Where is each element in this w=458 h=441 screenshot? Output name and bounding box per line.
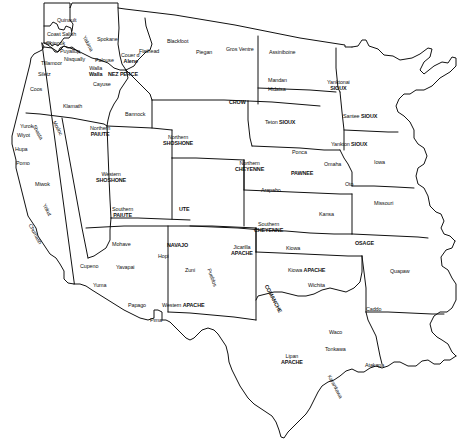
tribe-label: Quinault — [57, 18, 76, 24]
tribe-label: Teton SIOUX — [265, 120, 295, 126]
tribe-label: Kiowa — [286, 246, 300, 252]
tribe-label: Nisqually — [64, 57, 85, 63]
tribe-label: Puyallup — [60, 49, 80, 55]
tribe-label: LipanAPACHE — [281, 354, 303, 365]
tribe-label: YanktonaiSIOUX — [327, 80, 350, 91]
tribe-label: Wichita — [308, 283, 325, 289]
tribe-label: WesternSHOSHONE — [96, 172, 126, 183]
tribe-label: Tillamoor — [41, 61, 62, 67]
tribe-label: NEZ PERCE — [108, 72, 138, 78]
tribe-label: Yavapai — [116, 265, 134, 271]
tribe-label: Quapaw — [390, 269, 409, 275]
tribe-label: Missouri — [374, 201, 393, 207]
tribe-label: CROW — [229, 100, 246, 106]
tribe-label: Piegan — [196, 50, 212, 56]
tribe-label: Papago — [128, 303, 146, 309]
tribe-label: Pomo — [16, 161, 30, 167]
tribe-label: Kansa — [319, 212, 334, 218]
tribe-label: Wiyot — [17, 133, 30, 139]
tribe-label: Chinook — [46, 41, 65, 47]
tribe-label: Tonkawa — [325, 347, 346, 353]
tribe-label: Yankton SIOUX — [331, 142, 367, 148]
tribe-label: Cupeno — [80, 264, 98, 270]
tribe-label: Yuma — [93, 283, 106, 289]
tribe-label: Pima — [150, 318, 162, 324]
tribe-label: Blackfoot — [167, 39, 188, 45]
tribe-label: Miwok — [35, 182, 50, 188]
tribe-label: Santee SIOUX — [343, 114, 377, 120]
tribe-label: Bannock — [125, 112, 145, 118]
tribe-label: JicarillaAPACHE — [231, 245, 253, 256]
tribe-label: NorthernCHEYENNE — [235, 161, 264, 172]
tribe-label: Hopi — [158, 254, 169, 260]
tribe-label: Coast Salish — [47, 32, 76, 38]
tribe-label: Hidatsa — [268, 87, 286, 93]
tribe-label: Siletz — [38, 72, 51, 78]
tribe-label: Mohave — [112, 242, 131, 248]
tribe-label: Zuni — [185, 268, 195, 274]
tribe-label: Cayuse — [93, 82, 111, 88]
tribe-label: Mandan — [268, 78, 287, 84]
national-outline — [12, 3, 456, 438]
tribe-label: Gros Ventre — [226, 47, 254, 53]
tribe-label: Arapaho — [261, 188, 281, 194]
tribe-label: Ponca — [292, 150, 307, 156]
tribe-label: Omaha — [324, 162, 341, 168]
tribe-label: NorthernPAIUTE — [90, 126, 110, 137]
tribal-territory-map: QuinaultCoast SalishChinookPuyallupNisqu… — [0, 0, 458, 441]
tribe-label: SouthernCHEYENNE — [254, 222, 283, 233]
tribe-label: UTE — [179, 207, 189, 213]
tribe-label: Hupa — [15, 147, 28, 153]
map-boundaries-svg — [0, 0, 458, 441]
tribe-label: Kiowa APACHE — [288, 268, 325, 274]
tribe-label: NAVAJO — [167, 243, 188, 249]
tribe-label: Flathead — [139, 49, 159, 55]
tribe-label: NorthernSHOSHONE — [163, 135, 193, 146]
tribe-label: Palouse — [95, 58, 114, 64]
tribe-label: Western APACHE — [162, 303, 204, 309]
tribe-label: Klamath — [63, 104, 82, 110]
tribe-label: Coos — [30, 87, 42, 93]
tribe-label: Iowa — [374, 160, 385, 166]
tribe-label: WallaWalla — [89, 66, 102, 77]
tribe-label: OSAGE — [355, 241, 374, 247]
tribe-label: Caddo — [366, 307, 381, 313]
tribe-label: Couer d'Alene — [121, 53, 140, 64]
tribe-label: Atakapa — [365, 363, 384, 369]
tribe-label: PAWNEE — [291, 171, 313, 177]
tribe-label: Waco — [329, 330, 342, 336]
tribe-label: Assiniboine — [269, 50, 295, 56]
tribe-label: Oto — [345, 182, 353, 188]
tribe-label: SouthernPAIUTE — [112, 207, 133, 218]
tribe-label: Spokane — [97, 37, 118, 43]
